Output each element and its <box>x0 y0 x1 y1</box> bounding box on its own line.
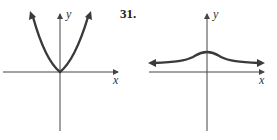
figures-canvas: y x 31. y x <box>0 0 277 140</box>
problem-number: 31. <box>120 6 136 21</box>
left-graph: y x <box>3 7 119 131</box>
left-x-label: x <box>112 73 119 87</box>
right-curve-arrow-left-icon <box>148 59 156 67</box>
right-y-label: y <box>212 7 219 21</box>
left-y-label: y <box>65 7 72 21</box>
right-curve-arrow-right-icon <box>257 59 265 67</box>
right-x-label: x <box>258 73 265 87</box>
right-graph: y x <box>148 7 265 131</box>
